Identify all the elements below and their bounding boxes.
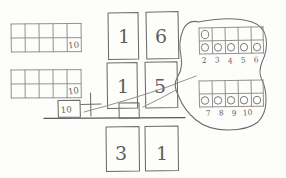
connector-line <box>84 76 196 112</box>
first-ten-frame-label: 10 <box>68 39 80 50</box>
digit-answer-ones-value: 1 <box>156 142 168 164</box>
upper-frame-counters-top <box>201 30 208 38</box>
upper-count-label-4: 5 <box>241 55 247 64</box>
lower-count-label-1: 7 <box>206 109 212 118</box>
upper-count-label-2: 3 <box>215 55 221 64</box>
lower-count-label-4: 10 <box>243 108 253 118</box>
carry-box <box>119 103 139 118</box>
upper-count-label-3: 4 <box>228 56 233 65</box>
upper-counting-frame <box>199 27 264 54</box>
plus-operator <box>81 93 101 116</box>
lower-count-label-3: 9 <box>231 109 237 118</box>
lower-counting-frame <box>199 80 264 107</box>
digit-mid-ones-value: 5 <box>154 75 166 97</box>
upper-count-label-1: 2 <box>201 56 207 65</box>
worksheet-page: 10 10 10 1 <box>0 0 286 178</box>
upper-count-label-5: 6 <box>253 55 259 64</box>
digit-answer-tens-value: 3 <box>115 142 127 164</box>
digit-top-tens-value: 1 <box>118 25 130 47</box>
digit-mid-tens-value: 1 <box>117 75 129 97</box>
regroup-box-value: 10 <box>60 104 71 115</box>
handwriting-canvas: 10 10 10 1 <box>0 0 286 178</box>
digit-top-ones-value: 6 <box>155 25 167 47</box>
second-ten-frame-label: 10 <box>67 85 79 96</box>
addition-line <box>44 118 185 119</box>
lower-count-label-2: 8 <box>219 108 224 117</box>
